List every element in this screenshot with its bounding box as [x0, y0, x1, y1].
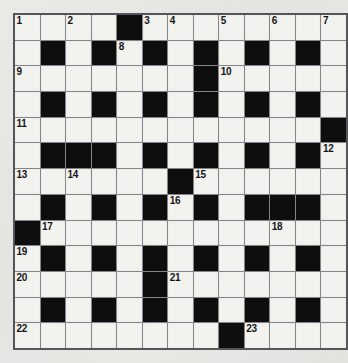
crossword-cell[interactable]: 22	[14, 323, 40, 349]
crossword-cell[interactable]	[219, 169, 245, 195]
crossword-cell[interactable]	[40, 271, 66, 297]
crossword-cell[interactable]	[117, 169, 143, 195]
crossword-cell[interactable]	[91, 323, 117, 349]
crossword-cell[interactable]: 7	[321, 14, 347, 40]
crossword-cell[interactable]	[91, 66, 117, 92]
crossword-cell[interactable]	[66, 92, 92, 118]
crossword-cell[interactable]	[321, 169, 347, 195]
crossword-cell[interactable]: 15	[193, 169, 219, 195]
crossword-cell[interactable]: 8	[117, 40, 143, 66]
crossword-cell[interactable]	[244, 169, 270, 195]
crossword-cell[interactable]	[244, 271, 270, 297]
crossword-cell[interactable]	[66, 40, 92, 66]
crossword-cell[interactable]	[40, 323, 66, 349]
crossword-cell[interactable]	[321, 66, 347, 92]
crossword-cell[interactable]	[295, 323, 321, 349]
crossword-cell[interactable]	[142, 66, 168, 92]
crossword-cell[interactable]	[91, 220, 117, 246]
crossword-cell[interactable]	[168, 297, 194, 323]
crossword-cell[interactable]	[321, 92, 347, 118]
crossword-cell[interactable]: 23	[244, 323, 270, 349]
crossword-cell[interactable]: 12	[321, 143, 347, 169]
crossword-cell[interactable]	[40, 169, 66, 195]
crossword-cell[interactable]	[117, 143, 143, 169]
crossword-cell[interactable]: 19	[14, 246, 40, 272]
crossword-cell[interactable]	[295, 220, 321, 246]
crossword-cell[interactable]	[91, 271, 117, 297]
crossword-cell[interactable]	[270, 66, 296, 92]
crossword-cell[interactable]	[219, 143, 245, 169]
crossword-cell[interactable]	[270, 169, 296, 195]
crossword-cell[interactable]	[219, 40, 245, 66]
crossword-cell[interactable]: 17	[40, 220, 66, 246]
crossword-cell[interactable]	[270, 271, 296, 297]
crossword-cell[interactable]	[193, 271, 219, 297]
crossword-cell[interactable]: 21	[168, 271, 194, 297]
crossword-cell[interactable]	[295, 66, 321, 92]
crossword-cell[interactable]	[193, 220, 219, 246]
crossword-cell[interactable]	[244, 117, 270, 143]
crossword-cell[interactable]	[270, 40, 296, 66]
crossword-cell[interactable]	[295, 271, 321, 297]
crossword-cell[interactable]	[321, 323, 347, 349]
crossword-cell[interactable]	[14, 92, 40, 118]
crossword-cell[interactable]	[14, 194, 40, 220]
crossword-cell[interactable]	[142, 323, 168, 349]
crossword-cell[interactable]	[66, 271, 92, 297]
crossword-cell[interactable]	[168, 66, 194, 92]
crossword-cell[interactable]	[295, 169, 321, 195]
crossword-cell[interactable]	[219, 194, 245, 220]
crossword-cell[interactable]	[66, 297, 92, 323]
crossword-cell[interactable]: 11	[14, 117, 40, 143]
crossword-cell[interactable]	[219, 220, 245, 246]
crossword-cell[interactable]	[193, 117, 219, 143]
crossword-cell[interactable]	[117, 220, 143, 246]
crossword-cell[interactable]	[40, 66, 66, 92]
crossword-cell[interactable]	[270, 117, 296, 143]
crossword-cell[interactable]	[168, 246, 194, 272]
crossword-cell[interactable]: 4	[168, 14, 194, 40]
crossword-cell[interactable]: 2	[66, 14, 92, 40]
crossword-cell[interactable]	[270, 297, 296, 323]
crossword-cell[interactable]	[14, 40, 40, 66]
crossword-cell[interactable]	[142, 117, 168, 143]
crossword-cell[interactable]	[117, 297, 143, 323]
crossword-cell[interactable]	[91, 169, 117, 195]
crossword-cell[interactable]	[321, 40, 347, 66]
crossword-cell[interactable]	[168, 117, 194, 143]
crossword-cell[interactable]	[168, 323, 194, 349]
crossword-cell[interactable]	[270, 92, 296, 118]
crossword-cell[interactable]	[321, 194, 347, 220]
crossword-grid[interactable]: 1234567891011121314151617181920212223	[13, 13, 348, 350]
crossword-cell[interactable]	[219, 117, 245, 143]
crossword-cell[interactable]	[244, 14, 270, 40]
crossword-cell[interactable]: 5	[219, 14, 245, 40]
crossword-cell[interactable]: 14	[66, 169, 92, 195]
crossword-cell[interactable]	[244, 220, 270, 246]
crossword-cell[interactable]	[91, 117, 117, 143]
crossword-cell[interactable]	[66, 246, 92, 272]
crossword-cell[interactable]: 20	[14, 271, 40, 297]
crossword-cell[interactable]	[321, 220, 347, 246]
crossword-cell[interactable]	[117, 246, 143, 272]
crossword-cell[interactable]	[244, 66, 270, 92]
crossword-cell[interactable]	[168, 220, 194, 246]
crossword-cell[interactable]: 18	[270, 220, 296, 246]
crossword-cell[interactable]	[270, 246, 296, 272]
crossword-cell[interactable]	[117, 66, 143, 92]
crossword-cell[interactable]	[270, 143, 296, 169]
crossword-cell[interactable]	[270, 323, 296, 349]
crossword-cell[interactable]: 9	[14, 66, 40, 92]
crossword-cell[interactable]	[117, 92, 143, 118]
crossword-cell[interactable]	[168, 92, 194, 118]
crossword-cell[interactable]	[193, 323, 219, 349]
crossword-cell[interactable]	[40, 117, 66, 143]
crossword-cell[interactable]	[66, 117, 92, 143]
crossword-cell[interactable]	[117, 323, 143, 349]
crossword-cell[interactable]	[219, 246, 245, 272]
crossword-cell[interactable]	[193, 14, 219, 40]
crossword-cell[interactable]	[14, 143, 40, 169]
crossword-cell[interactable]: 6	[270, 14, 296, 40]
crossword-cell[interactable]	[142, 169, 168, 195]
crossword-cell[interactable]	[295, 14, 321, 40]
